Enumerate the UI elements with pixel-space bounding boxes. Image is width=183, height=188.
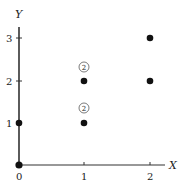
scatter-chart: 3 2 1 0 1 2 Y X 2 2 (0, 0, 183, 188)
y-tick-label-3: 3 (6, 33, 12, 44)
multiplicity-marker-1-2: 2 (79, 62, 89, 72)
point-2-2 (147, 78, 154, 85)
multiplicity-label: 2 (82, 105, 86, 113)
y-axis-label: Y (15, 8, 24, 21)
point-0-0 (15, 161, 22, 168)
x-tick-label-2: 2 (147, 171, 153, 182)
y-tick-label-1: 1 (6, 118, 12, 129)
x-tick-label-0: 0 (16, 171, 22, 182)
point-1-1 (81, 120, 88, 127)
point-1-2 (81, 78, 88, 85)
x-tick-label-1: 1 (81, 171, 87, 182)
x-axis-label: X (168, 159, 178, 172)
y-tick-label-2: 2 (6, 76, 12, 87)
multiplicity-label: 2 (82, 64, 86, 72)
point-2-3 (147, 35, 154, 42)
multiplicity-marker-1-1: 2 (79, 103, 89, 113)
point-0-1 (16, 120, 23, 127)
